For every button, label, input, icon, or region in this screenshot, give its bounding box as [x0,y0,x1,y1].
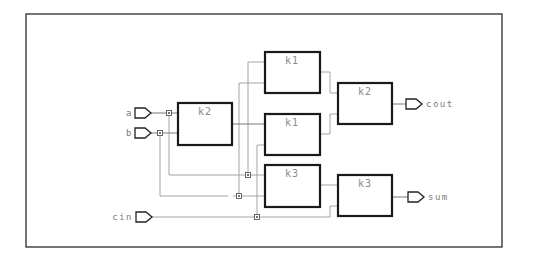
wire-k1-top-to-k2-right [320,72,338,93]
input-port-icon [136,212,152,222]
junction-cin [255,215,260,220]
input-port-b[interactable]: b [126,128,151,138]
port-label-cout: cout [426,99,454,109]
output-port-cout[interactable]: cout [406,99,454,109]
junction-b [158,131,163,136]
port-label-sum: sum [428,192,449,202]
schematic-canvas: k2 k1 k1 k3 k2 k3 a b cin cout sum [0,0,554,265]
wire-k1-mid-to-k2-right [320,114,338,134]
output-port-sum[interactable]: sum [408,192,449,202]
output-port-icon [406,99,422,109]
input-port-icon [135,128,151,138]
input-port-cin[interactable]: cin [112,212,152,222]
block-label: k2 [358,86,372,97]
port-label-a: a [126,108,133,118]
junction-b-k3 [237,194,242,199]
output-port-icon [408,192,424,202]
input-port-a[interactable]: a [126,108,151,118]
wire-cin-to-k1-mid [257,145,265,217]
block-k3-right[interactable]: k3 [338,175,392,216]
wire-b-to-k1-top [239,83,265,196]
port-label-b: b [126,128,133,138]
block-k2-right[interactable]: k2 [338,83,392,124]
block-k1-middle[interactable]: k1 [265,114,320,155]
block-label: k3 [358,178,372,189]
block-label: k1 [285,55,299,66]
block-k1-top[interactable]: k1 [265,52,320,93]
junction-a-k3 [246,173,251,178]
block-label: k3 [285,168,299,179]
junction-a [167,111,172,116]
wire-a-to-k1-top [248,62,265,175]
block-label: k1 [285,117,299,128]
input-port-icon [135,108,151,118]
block-k2-left[interactable]: k2 [178,103,232,145]
block-k3-left[interactable]: k3 [265,165,320,207]
block-label: k2 [198,106,212,117]
port-label-cin: cin [112,212,133,222]
